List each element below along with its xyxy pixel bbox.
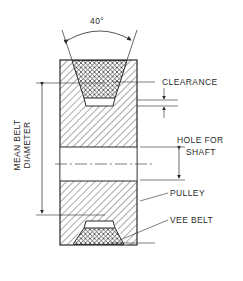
angle-dimension <box>62 30 137 60</box>
pulley-leader <box>140 193 168 201</box>
pulley-label: PULLEY <box>170 188 205 198</box>
hole-dimension <box>140 147 185 180</box>
mean-belt-label: MEAN BELT <box>12 115 22 175</box>
clearance-label: CLEARANCE <box>162 77 218 87</box>
diameter-label: DIAMETER <box>22 115 32 175</box>
vee-belt-label: VEE BELT <box>170 215 213 225</box>
angle-label: 40° <box>90 16 104 26</box>
hole-for-label: HOLE FOR <box>177 135 224 145</box>
shaft-label: SHAFT <box>186 147 216 157</box>
